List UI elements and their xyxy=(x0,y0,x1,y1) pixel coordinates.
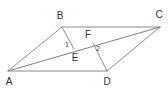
angle-label-1: 1 xyxy=(65,41,69,48)
geometry-figure: A B C D E F 1 2 xyxy=(0,0,168,90)
figure-canvas xyxy=(0,0,168,90)
point-label-f: F xyxy=(85,30,91,40)
angle-label-2: 2 xyxy=(96,45,100,52)
vertex-label-c: C xyxy=(155,10,162,20)
vertex-label-a: A xyxy=(6,77,13,87)
vertex-label-d: D xyxy=(103,77,110,87)
vertex-label-b: B xyxy=(57,11,64,21)
point-label-e: E xyxy=(72,53,79,63)
side-cd xyxy=(107,27,160,71)
side-ab xyxy=(8,27,62,71)
